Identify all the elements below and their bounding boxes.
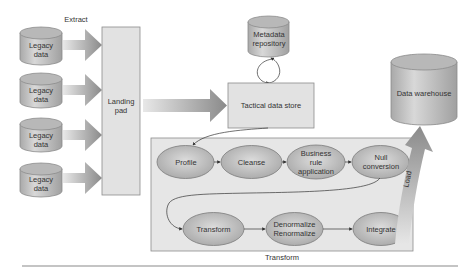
legacy-data-label-3: Legacy data (24, 130, 58, 150)
step-label-cleanse: Cleanse (224, 153, 279, 171)
tactical-data-store-label: Tactical data store (228, 100, 314, 111)
step-label-transform: Transform (186, 220, 241, 238)
extract-arrow-2 (63, 74, 102, 106)
extract-arrow-1 (63, 29, 102, 61)
legacy-data-label-2: Legacy data (24, 85, 58, 105)
landing-pad-label: Landing pad (103, 96, 139, 116)
data-warehouse-label: Data warehouse (392, 88, 456, 99)
legacy-data-label-1: Legacy data (24, 40, 58, 60)
step-label-null-conversion: Null conversion (357, 151, 405, 173)
metadata-repository-label: Metadata repository (250, 29, 288, 49)
step-label-denormalize: Denormalize Renormalize (268, 218, 321, 240)
extract-arrow-3 (63, 119, 102, 151)
transform-group-label: Transform (262, 252, 302, 262)
step-label-integrate: Integrate (356, 220, 406, 238)
extract-arrow-4 (63, 162, 102, 194)
step-label-profile: Profile (160, 153, 212, 171)
metadata-loop-connector (257, 59, 273, 83)
legacy-data-label-4: Legacy data (24, 174, 58, 194)
extract-label: Extract (58, 14, 94, 24)
tactical-loop-connector (269, 58, 280, 83)
step-label-business-rule: Business rule application (294, 148, 338, 176)
landing-to-tactical-arrow (143, 89, 227, 122)
